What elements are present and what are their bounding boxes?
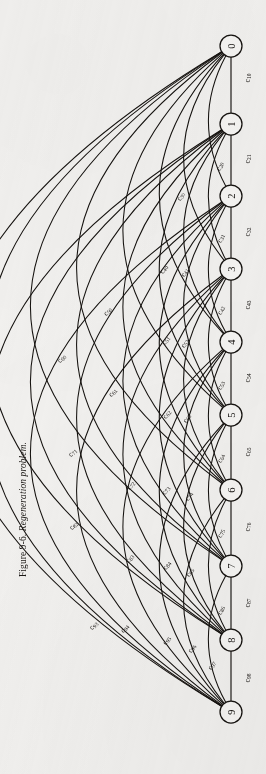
edge-label-c64: c64 (214, 452, 226, 464)
edge-label-c85: c85 (183, 566, 196, 579)
figure-caption: Figure 9-6. Regeneration problem. (18, 407, 28, 577)
edge-label-c76: c76 (243, 522, 252, 531)
edge-label-c21: c21 (243, 154, 252, 163)
graph-node-label: 7 (226, 563, 237, 568)
edge-label-c10: c10 (243, 73, 252, 82)
edge-label-layer: c10c21c20c32c31c30c43c42c41c40c54c53c52c… (55, 73, 252, 682)
edge-label-c31: c31 (214, 232, 226, 244)
graph-node-label: 4 (226, 339, 237, 345)
graph-node-2: 2 (220, 185, 242, 207)
edge-label-c75: c75 (214, 527, 226, 539)
figure-canvas: 0123456789 c10c21c20c32c31c30c43c42c41c4… (0, 0, 266, 774)
graph-node-label: 8 (226, 637, 237, 642)
graph-node-5: 5 (220, 404, 242, 426)
graph-node-6: 6 (220, 479, 242, 501)
edge-label-c86: c86 (214, 604, 226, 616)
edge-label-c96: c96 (185, 642, 198, 655)
edge-label-c98: c98 (243, 673, 252, 682)
edge-label-c61: c61 (106, 386, 119, 399)
edge-label-c40: c40 (157, 263, 170, 276)
graph-node-3: 3 (220, 258, 242, 280)
edge-label-c84: c84 (160, 559, 173, 572)
graph-node-4: 4 (220, 331, 242, 353)
edge-label-c94: c94 (118, 622, 131, 635)
graph-node-label: 9 (226, 709, 237, 714)
graph-node-label: 6 (226, 487, 237, 492)
edge-label-c73: c73 (159, 484, 172, 497)
edge-layer (0, 52, 226, 707)
graph-diagram: 0123456789 c10c21c20c32c31c30c43c42c41c4… (0, 0, 266, 774)
edge-label-c65: c65 (243, 447, 252, 456)
edge-label-c54: c54 (243, 373, 252, 382)
graph-node-label: 1 (226, 121, 237, 126)
caption-number: Figure 9-6. (18, 534, 28, 577)
graph-node-label: 2 (226, 193, 237, 198)
graph-node-7: 7 (220, 555, 242, 577)
caption-title: Regeneration problem. (18, 442, 28, 531)
edge-label-c71: c71 (66, 446, 79, 459)
graph-node-8: 8 (220, 629, 242, 651)
edge-label-c95: c95 (160, 634, 173, 647)
graph-node-label: 5 (226, 412, 237, 417)
edge-label-c74: c74 (182, 490, 195, 503)
graph-node-1: 1 (220, 113, 242, 135)
edge-label-c87: c87 (243, 598, 252, 607)
graph-node-label: 3 (226, 266, 237, 271)
edge-label-c50: c50 (101, 305, 114, 318)
edge-label-c42: c42 (214, 304, 226, 316)
graph-node-0: 0 (220, 35, 242, 57)
edge-label-c32: c32 (243, 227, 252, 236)
edge-label-c97: c97 (205, 659, 218, 671)
graph-node-9: 9 (220, 701, 242, 723)
edge-label-c53: c53 (214, 379, 226, 391)
edge-label-c82: c82 (67, 519, 80, 532)
edge-label-c43: c43 (243, 300, 252, 309)
graph-node-label: 0 (226, 43, 237, 48)
